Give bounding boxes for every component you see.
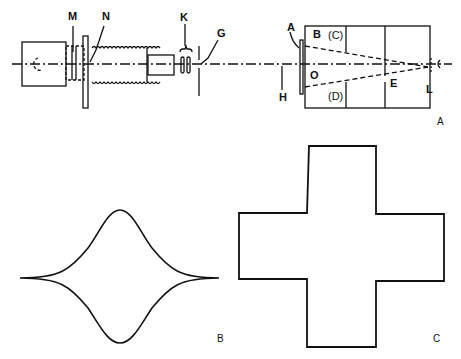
label-g: G [217, 28, 226, 39]
label-k: K [180, 12, 188, 23]
label-a-pointer: A [287, 22, 295, 33]
panel-label-c: C [433, 334, 440, 344]
greek-cross [239, 146, 444, 347]
label-h: H [279, 92, 287, 103]
cusp-curve [20, 210, 219, 343]
panel-label-a: A [437, 117, 444, 127]
label-d-region: (D) [328, 91, 343, 102]
bellows-bottom [92, 82, 160, 84]
label-e: E [390, 78, 397, 89]
k-bracket [180, 46, 192, 52]
panel-label-b: B [217, 334, 224, 344]
lens-tube [148, 55, 174, 75]
label-l: L [426, 84, 433, 95]
plate-a [300, 40, 303, 94]
n-flange [83, 36, 88, 108]
label-m: M [68, 11, 77, 22]
label-n: N [102, 11, 110, 22]
bellows-top [92, 47, 160, 49]
viewing-box [305, 26, 430, 108]
m-block [66, 46, 84, 80]
label-b: B [313, 29, 321, 40]
diagram-canvas [0, 0, 461, 359]
label-o: O [310, 70, 319, 81]
label-c-region: (C) [328, 30, 343, 41]
